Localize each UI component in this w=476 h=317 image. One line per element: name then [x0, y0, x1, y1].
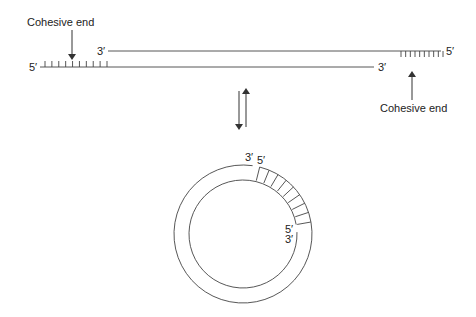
base-pair-tick — [292, 203, 305, 209]
top-strand-3prime-label: 3′ — [97, 45, 105, 57]
bottom-strand-3prime-label: 3′ — [378, 61, 386, 73]
base-pair-tick — [264, 170, 269, 183]
right-overhang-ticks — [401, 51, 443, 57]
base-pair-tick — [271, 175, 278, 187]
cohesive-end-diagram: Cohesive end 3′ 5′ 5′ 3′ Cohesive end 3′… — [0, 0, 476, 317]
right-cohesive-end-label: Cohesive end — [380, 102, 447, 114]
reversible-arrows-icon — [239, 91, 246, 127]
base-pair-tick — [288, 195, 300, 203]
left-cohesive-end-label: Cohesive end — [27, 16, 94, 28]
base-pair-tick — [277, 180, 286, 191]
left-overhang-ticks — [45, 61, 107, 67]
inner-3prime-label: 3′ — [285, 233, 293, 245]
base-pair-tick — [295, 212, 308, 216]
top-strand-5prime-label: 5′ — [446, 45, 454, 57]
bottom-strand-5prime-label: 5′ — [29, 61, 37, 73]
base-pair-tick — [283, 187, 293, 197]
linear-dna: Cohesive end 3′ 5′ 5′ 3′ Cohesive end — [27, 16, 454, 114]
outer-3prime-label: 3′ — [245, 151, 253, 163]
circular-dna: 3′ 5′ 5′ 3′ — [174, 151, 312, 303]
paired-cohesive-ticks — [256, 167, 311, 224]
inner-strand — [189, 180, 297, 288]
base-pair-tick — [297, 222, 311, 224]
outer-5prime-label: 5′ — [257, 154, 265, 166]
base-pair-tick — [256, 167, 259, 181]
